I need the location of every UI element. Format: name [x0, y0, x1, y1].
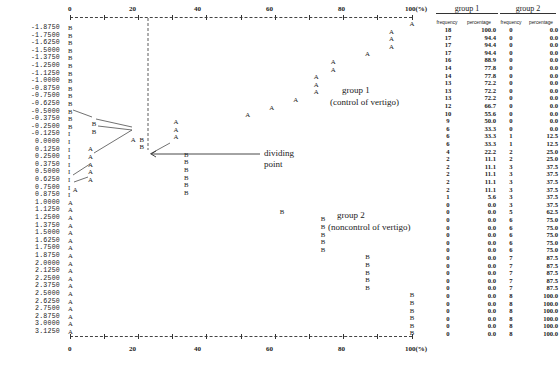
axis-tick-mark [309, 15, 310, 20]
axis-tick-mark [343, 334, 344, 339]
axis-tick-mark [377, 15, 378, 20]
axis-tick-mark [241, 334, 242, 339]
axis-tick-mark [172, 334, 173, 339]
axis-tick-mark [377, 334, 378, 339]
axis-tick-mark [241, 15, 242, 20]
axis-tick-mark [138, 15, 139, 20]
group1-label: group 1 [342, 85, 370, 96]
axis-tick-mark [172, 15, 173, 20]
axis-tick-mark [206, 334, 207, 339]
axis-tick-mark [309, 334, 310, 339]
axis-tick-mark [412, 334, 413, 339]
axis-tick-mark [70, 15, 71, 20]
dividing-point-label-2: point [264, 159, 283, 170]
axis-tick-mark [275, 334, 276, 339]
annotation-lines [0, 0, 559, 365]
group2-label: group 2 [337, 210, 365, 221]
axis-tick-mark [104, 334, 105, 339]
group2-sublabel: (noncontrol of vertigo) [328, 222, 410, 233]
col-header-g1-freq: frequency [434, 20, 460, 25]
axis-tick-mark [412, 15, 413, 20]
col-header-g2-freq: frequency [498, 20, 524, 25]
axis-tick-mark [343, 15, 344, 20]
axis-tick-mark [206, 15, 207, 20]
group1-sublabel: (control of vertigo) [330, 97, 399, 108]
axis-tick-mark [138, 334, 139, 339]
dividing-point-label-1: dividing [264, 148, 294, 159]
axis-tick-mark [275, 15, 276, 20]
col-header-g2-pct: percentage [524, 20, 558, 25]
col-header-g1-pct: percentage [462, 20, 496, 25]
axis-tick-mark [104, 15, 105, 20]
axis-tick-mark [70, 334, 71, 339]
table-title-group2: group 2 [500, 4, 556, 14]
table-title-group1: group 1 [436, 4, 498, 14]
